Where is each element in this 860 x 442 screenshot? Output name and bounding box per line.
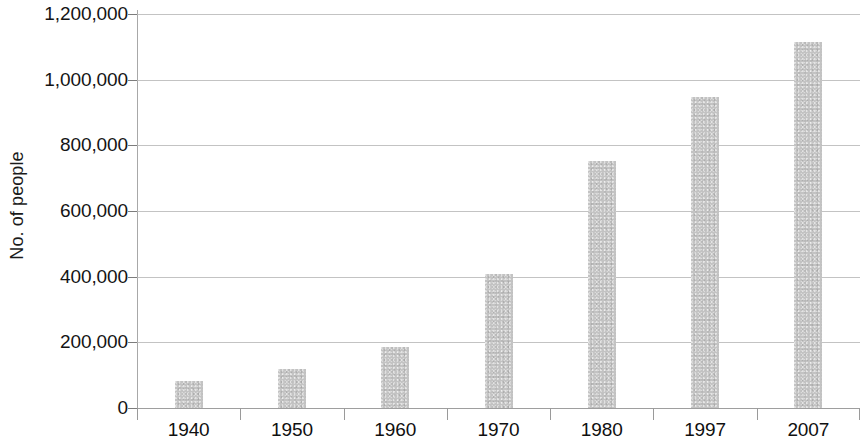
y-axis-tick-label: 0 — [6, 397, 128, 419]
y-axis-tick-mark — [128, 342, 137, 343]
y-axis-tick-label: 1,000,000 — [6, 69, 128, 91]
gridline — [137, 14, 860, 15]
x-axis-tick-label-1997: 1997 — [684, 419, 726, 441]
y-axis-tick-mark — [128, 145, 137, 146]
plot-area — [137, 14, 860, 408]
y-axis-tick-mark — [128, 14, 137, 15]
x-axis-separator — [757, 408, 758, 420]
x-axis-separator — [344, 408, 345, 420]
y-axis-tick-label: 1,200,000 — [6, 3, 128, 25]
bar-chart: No. of people 0200,000400,000600,000800,… — [0, 0, 860, 442]
y-axis-tick-mark — [128, 80, 137, 81]
y-axis-tick-label: 600,000 — [6, 200, 128, 222]
x-axis-tick-label-1950: 1950 — [271, 419, 313, 441]
x-axis-separator — [447, 408, 448, 420]
y-axis-tick-mark — [128, 211, 137, 212]
x-axis: 1940195019601970198019972007 — [137, 408, 860, 442]
x-axis-tick-label-1940: 1940 — [168, 419, 210, 441]
gridline — [137, 211, 860, 212]
y-axis-tick-mark — [128, 277, 137, 278]
y-axis-tick-label: 200,000 — [6, 331, 128, 353]
y-axis-tick-label: 800,000 — [6, 134, 128, 156]
x-axis-tick-label-1960: 1960 — [374, 419, 416, 441]
bar-2007 — [794, 42, 822, 408]
y-axis-tick-marks — [128, 0, 137, 442]
x-axis-separator — [550, 408, 551, 420]
bar-1997 — [691, 97, 719, 408]
y-axis-tick-mark — [128, 408, 137, 409]
x-axis-tick-label-1970: 1970 — [478, 419, 520, 441]
x-axis-tick-label-2007: 2007 — [787, 419, 829, 441]
gridline — [137, 80, 860, 81]
x-axis-separator — [653, 408, 654, 420]
bar-1970 — [485, 274, 513, 408]
gridline — [137, 145, 860, 146]
bar-1960 — [381, 347, 409, 408]
x-axis-separator — [137, 408, 138, 420]
x-axis-separator — [240, 408, 241, 420]
y-axis-tick-labels: 0200,000400,000600,000800,0001,000,0001,… — [0, 0, 128, 442]
y-axis-tick-label: 400,000 — [6, 266, 128, 288]
bar-1940 — [175, 381, 203, 408]
bar-1950 — [278, 369, 306, 408]
x-axis-tick-label-1980: 1980 — [581, 419, 623, 441]
bar-1980 — [588, 161, 616, 408]
